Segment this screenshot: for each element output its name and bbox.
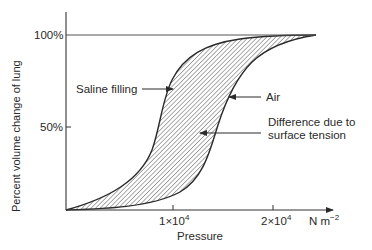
x-axis-unit: N m−2 (309, 216, 339, 228)
difference-label-line2: surface tension (268, 130, 346, 142)
difference-label-line1: Difference due to (268, 117, 355, 129)
unit-base: N m (309, 215, 330, 227)
x2-mantissa: 2×10 (261, 215, 287, 227)
x1-mantissa: 1×10 (159, 215, 185, 227)
x-axis-label: Pressure (177, 231, 223, 243)
y-tick-label-100: 100% (34, 30, 63, 42)
x-tick-label-1e4: 1×104 (159, 216, 189, 228)
unit-exponent: −2 (330, 213, 339, 222)
x1-exponent: 4 (185, 213, 189, 222)
saline-filling-label: Saline filling (76, 84, 137, 96)
x2-exponent: 4 (287, 213, 291, 222)
air-label: Air (266, 92, 280, 104)
y-axis-label: Percent volume change of lung (10, 60, 22, 212)
x-tick-label-2e4: 2×104 (261, 216, 291, 228)
y-tick-label-50: 50% (40, 122, 63, 134)
